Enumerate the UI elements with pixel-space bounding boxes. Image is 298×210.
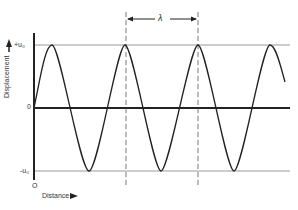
minus-amplitude-label: -u₀ [20,167,29,174]
plus-amplitude-label: +u₀ [14,41,25,48]
wave-diagram [0,0,298,210]
x-axis-label: Distance [42,192,69,199]
origin-label: O [32,182,37,189]
y-axis-label: Displacement [3,56,10,98]
right-arrow-icon [70,193,78,199]
zero-label: 0 [27,103,31,110]
wavelength-label: λ [158,13,162,23]
